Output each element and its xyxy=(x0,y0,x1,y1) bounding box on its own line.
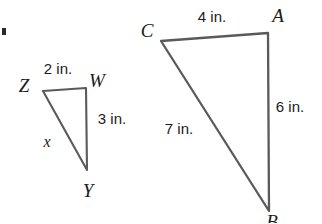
side-label-ab: 6 in. xyxy=(276,99,304,114)
vertex-label-z: Z xyxy=(19,76,30,95)
side-label-zw: 2 in. xyxy=(44,61,72,76)
side-label-wy: 3 in. xyxy=(98,111,126,126)
vertex-label-a: A xyxy=(272,6,284,25)
side-label-ca: 4 in. xyxy=(198,9,226,24)
vertex-label-c: C xyxy=(141,21,154,40)
triangles-drawing xyxy=(0,0,322,223)
vertex-label-b: B xyxy=(266,212,278,224)
geometry-figure: Z W Y 2 in. 3 in. x C A B 4 in. 6 in. 7 … xyxy=(0,0,322,223)
small-triangle-shape xyxy=(43,88,87,170)
vertex-label-y: Y xyxy=(83,181,94,200)
vertex-label-w: W xyxy=(89,71,105,90)
side-label-zy-unknown: x xyxy=(43,134,50,150)
page-edge-mark xyxy=(2,28,6,35)
side-label-cb: 7 in. xyxy=(165,121,193,136)
